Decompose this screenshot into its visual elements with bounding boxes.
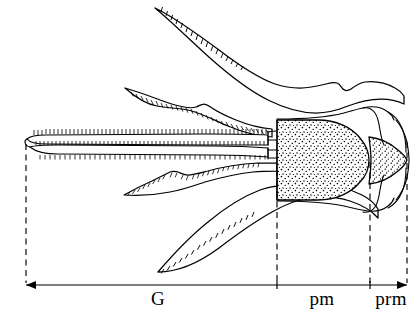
label-galea: G: [151, 288, 165, 309]
label-postmentum: pm: [310, 288, 335, 309]
postmentum-body: [277, 120, 369, 200]
lower-inner-lacinia: [124, 163, 277, 196]
figure-canvas: G pm prm: [0, 0, 420, 320]
measurement-axis: [26, 281, 407, 289]
segment-labels: G pm prm: [151, 288, 407, 309]
prementum-body: [369, 137, 407, 184]
morphology-figure: G pm prm: [0, 0, 420, 320]
lower-blade-appendage: [158, 185, 378, 274]
label-prementum: prm: [375, 288, 407, 309]
drawing-layer: G pm prm: [25, 7, 409, 309]
galea-setose-shaft: [25, 129, 268, 160]
axis-arrow-left: [26, 281, 36, 289]
upper-blade-appendage: [155, 7, 404, 113]
